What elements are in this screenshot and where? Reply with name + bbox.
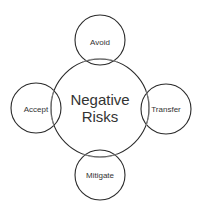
avoid-label: Avoid bbox=[90, 38, 110, 47]
center-label-line1: Negative bbox=[70, 91, 129, 108]
accept-label: Accept bbox=[24, 105, 49, 114]
center-label-line2: Risks bbox=[82, 108, 119, 125]
transfer-label: Transfer bbox=[151, 105, 181, 114]
mitigate-label: Mitigate bbox=[86, 171, 115, 180]
risk-response-diagram: Negative Risks Avoid Accept Transfer Mit… bbox=[0, 0, 202, 213]
